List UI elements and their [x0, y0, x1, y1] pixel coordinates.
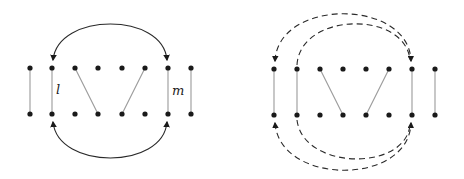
bottom-row-dots [27, 111, 193, 116]
top-row-dots [271, 66, 437, 71]
label-l: l [56, 82, 60, 97]
edge [320, 69, 343, 115]
outer-bottom-dashed-arc [275, 123, 411, 170]
left-diagram: l m [27, 24, 193, 158]
top-row-dots [27, 65, 193, 70]
edge [75, 68, 98, 114]
edge [366, 69, 389, 115]
bottom-row-dots [271, 112, 437, 117]
inner-top-dashed-arc [297, 24, 410, 65]
diagram-canvas: l m [0, 0, 464, 179]
inner-bottom-dashed-arc [297, 120, 410, 159]
label-m: m [172, 83, 184, 98]
top-arc [53, 24, 167, 60]
bottom-arc [53, 122, 167, 158]
edge [122, 68, 145, 114]
outer-top-dashed-arc [275, 14, 411, 61]
right-diagram [271, 14, 437, 171]
